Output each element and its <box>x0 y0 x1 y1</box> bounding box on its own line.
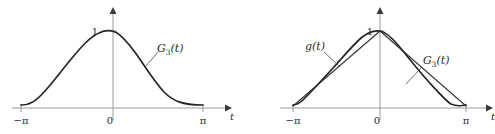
right-y-axis-arrowhead <box>377 7 384 14</box>
right-ytick-label-one: 1 <box>367 26 373 37</box>
left-y-axis-arrowhead <box>110 7 117 14</box>
right-plot-canvas: g(t) G3(t) 1 −π 0 π t <box>247 0 495 134</box>
right-x-axis-label: t <box>491 111 495 122</box>
left-xtick-label-zero: 0 <box>107 115 113 126</box>
right-xtick-label-neg-pi: −π <box>286 115 301 126</box>
left-xtick-label-neg-pi: −π <box>14 115 29 126</box>
right-xtick-label-pos-pi: π <box>463 115 470 126</box>
right-xtick-label-zero: 0 <box>374 115 380 126</box>
left-curve-label-tail: (t) <box>171 42 184 55</box>
right-curve-label-g-tail: (t) <box>312 40 325 53</box>
left-curve-label-base: G <box>157 42 166 55</box>
figure-pair: G3(t) 1 −π 0 π t <box>0 0 495 134</box>
right-g3-label-leader <box>406 68 421 84</box>
right-g-label-leader <box>324 52 339 66</box>
left-ytick-label-one: 1 <box>92 26 98 37</box>
left-plot: G3(t) 1 −π 0 π t <box>0 0 248 134</box>
right-curve-label-g3-tail: (t) <box>437 54 450 67</box>
right-curve-label-g: g(t) <box>305 40 325 53</box>
left-x-axis-label: t <box>230 111 235 122</box>
right-curve-label-g3: G3(t) <box>423 54 450 69</box>
left-curve-label: G3(t) <box>157 42 184 57</box>
right-curve-label-g-base: g <box>305 40 312 53</box>
right-curve-label-g3-base: G <box>423 54 432 67</box>
left-plot-canvas: G3(t) 1 −π 0 π t <box>0 0 248 134</box>
left-xtick-label-pos-pi: π <box>200 115 207 126</box>
right-plot: g(t) G3(t) 1 −π 0 π t <box>247 0 495 134</box>
